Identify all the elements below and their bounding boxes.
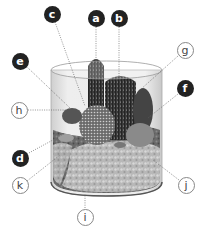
label-e: e (12, 53, 29, 70)
label-j: j (178, 177, 195, 194)
label-k: k (12, 177, 29, 194)
label-f: f (177, 80, 194, 97)
label-h: h (11, 102, 28, 119)
label-i: i (77, 209, 94, 226)
terrarium-illustration (0, 0, 207, 236)
cactus-c-round (79, 105, 115, 145)
label-g: g (177, 42, 194, 59)
label-a: a (88, 10, 105, 27)
label-c: c (44, 6, 61, 23)
label-d: d (12, 150, 29, 167)
cactus-f-round (126, 123, 154, 147)
cactus-e-small (62, 108, 82, 124)
label-b: b (111, 10, 128, 27)
